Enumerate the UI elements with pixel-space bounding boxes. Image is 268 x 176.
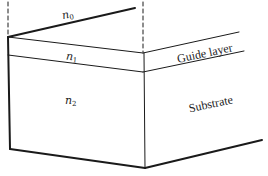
bottom-side-edge [145, 140, 262, 168]
bottom-front-edge [10, 149, 145, 168]
substrate-label: Substrate [187, 92, 234, 115]
guide-top-front-line [8, 37, 143, 53]
left-vertical-edge [8, 37, 10, 149]
diagram-lines [8, 2, 262, 168]
middle-vertical-edge [144, 53, 145, 168]
substrate-index-label: n2 [65, 94, 77, 108]
cover-index-label: n0 [61, 7, 75, 23]
guide-index-label: n1 [65, 50, 78, 65]
waveguide-diagram: n0 n1 n2 Guide layer Substrate [0, 0, 268, 176]
